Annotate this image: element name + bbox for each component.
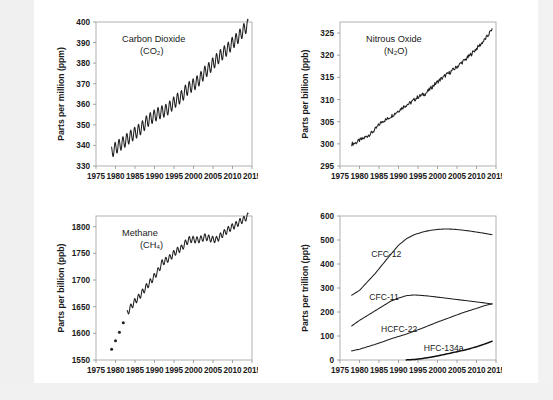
y-axis-title: Parts per billion (ppb) (300, 49, 310, 138)
figure-root: 3303403503603703803904001975198019851990… (0, 0, 553, 400)
y-tick-label: 310 (320, 96, 334, 105)
x-tick-label: 2010 (223, 366, 242, 375)
y-tick-label: 320 (320, 51, 334, 60)
x-tick-label: 2005 (204, 172, 223, 181)
y-tick-label: 360 (76, 100, 90, 109)
y-tick-label: 300 (320, 140, 334, 149)
chart-svg-ch4: 1550160016501700175018001975198019851990… (44, 200, 258, 386)
data-point (110, 348, 113, 351)
plot-frame (340, 216, 496, 360)
y-tick-label: 100 (320, 332, 334, 341)
series-label-hfc-134a: HFC-134a (424, 343, 464, 353)
x-tick-label: 1990 (389, 366, 408, 375)
page-margin-right (538, 0, 553, 400)
chart-panel-carbon-dioxide: 3303403503603703803904001975198019851990… (44, 6, 258, 192)
y-tick-label: 325 (320, 29, 334, 38)
gas-formula-label: (CH₄) (140, 240, 163, 250)
y-tick-label: 0 (329, 356, 334, 365)
y-tick-label: 300 (320, 284, 334, 293)
x-tick-label: 1995 (165, 366, 184, 375)
y-tick-label: 380 (76, 59, 90, 68)
x-tick-label: 2005 (448, 172, 467, 181)
x-tick-label: 1990 (145, 366, 164, 375)
x-tick-label: 1975 (87, 172, 106, 181)
x-tick-label: 1980 (106, 366, 125, 375)
x-tick-label: 2010 (467, 366, 486, 375)
chart-svg-co2: 3303403503603703803904001975198019851990… (44, 6, 258, 192)
y-axis-title: Parts per trillion (ppt) (300, 244, 310, 332)
caption-ghost (38, 386, 508, 398)
y-tick-label: 350 (76, 121, 90, 130)
x-tick-label: 1985 (126, 172, 145, 181)
page-margin-left (0, 0, 34, 400)
x-tick-label: 2015 (243, 172, 258, 181)
y-axis-title: Parts per billion (ppb) (56, 243, 66, 332)
y-tick-label: 1550 (72, 356, 91, 365)
x-tick-label: 2015 (487, 172, 502, 181)
gas-formula-label: (CO₂) (140, 46, 163, 56)
y-tick-label: 330 (76, 162, 90, 171)
data-point (118, 331, 121, 334)
x-tick-label: 1975 (87, 366, 106, 375)
y-tick-label: 400 (320, 260, 334, 269)
chart-panel-halocarbons: 0100200300400500600197519801985199019952… (288, 200, 502, 386)
x-tick-label: 1980 (350, 172, 369, 181)
y-tick-label: 1600 (72, 329, 91, 338)
x-tick-label: 2015 (487, 366, 502, 375)
chart-panel-methane: 1550160016501700175018001975198019851990… (44, 200, 258, 386)
x-tick-label: 2000 (428, 366, 447, 375)
y-tick-label: 370 (76, 80, 90, 89)
x-tick-label: 1975 (331, 366, 350, 375)
plot-frame (96, 216, 252, 360)
data-point (114, 339, 117, 342)
x-tick-label: 1995 (409, 366, 428, 375)
chart-svg-n2o: 2953003053103153203251975198019851990199… (288, 6, 502, 192)
gas-name-label: Nitrous Oxide (366, 34, 422, 44)
x-tick-label: 1990 (145, 172, 164, 181)
y-tick-label: 500 (320, 236, 334, 245)
y-tick-label: 305 (320, 118, 334, 127)
y-tick-label: 1800 (72, 223, 91, 232)
x-tick-label: 2000 (428, 172, 447, 181)
y-tick-label: 315 (320, 73, 334, 82)
y-tick-label: 340 (76, 141, 90, 150)
x-tick-label: 1980 (350, 366, 369, 375)
x-tick-label: 2005 (448, 366, 467, 375)
x-tick-label: 1995 (165, 172, 184, 181)
x-tick-label: 2005 (204, 366, 223, 375)
gas-name-label: Carbon Dioxide (122, 34, 185, 44)
y-tick-label: 390 (76, 39, 90, 48)
x-tick-label: 1985 (370, 172, 389, 181)
x-tick-label: 1975 (331, 172, 350, 181)
y-tick-label: 200 (320, 308, 334, 317)
gas-name-label: Methane (122, 228, 158, 238)
y-tick-label: 600 (320, 212, 334, 221)
y-tick-label: 295 (320, 162, 334, 171)
y-axis-title: Parts per million (ppm) (56, 47, 66, 141)
x-tick-label: 1990 (389, 172, 408, 181)
y-tick-label: 1650 (72, 303, 91, 312)
chart-panel-nitrous-oxide: 2953003053103153203251975198019851990199… (288, 6, 502, 192)
x-tick-label: 2010 (223, 172, 242, 181)
series-label-cfc-11: CFC-11 (369, 292, 399, 302)
x-tick-label: 2000 (184, 366, 203, 375)
y-tick-label: 1750 (72, 249, 91, 258)
chart-svg-halocarbons: 0100200300400500600197519801985199019952… (288, 200, 502, 386)
x-tick-label: 1985 (370, 366, 389, 375)
y-tick-label: 400 (76, 18, 90, 27)
x-tick-label: 2000 (184, 172, 203, 181)
x-tick-label: 1980 (106, 172, 125, 181)
series-label-hcfc-22: HCFC-22 (381, 324, 418, 334)
data-point (122, 321, 125, 324)
x-tick-label: 2010 (467, 172, 486, 181)
y-tick-label: 1700 (72, 276, 91, 285)
x-tick-label: 1995 (409, 172, 428, 181)
series-label-cfc-12: CFC-12 (371, 249, 401, 259)
gas-formula-label: (N₂O) (384, 46, 407, 56)
x-tick-label: 2015 (243, 366, 258, 375)
x-tick-label: 1985 (126, 366, 145, 375)
